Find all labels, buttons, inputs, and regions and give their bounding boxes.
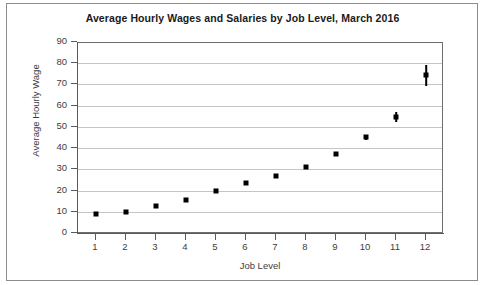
x-axis-title: Job Level	[77, 260, 443, 271]
y-axis-tick	[71, 41, 77, 42]
gridline	[78, 169, 442, 170]
gridline	[78, 106, 442, 107]
x-axis-label: 11	[383, 242, 407, 252]
data-point-marker	[334, 152, 339, 157]
y-axis-tick	[71, 147, 77, 148]
x-axis-tick	[245, 234, 246, 240]
chart-title: Average Hourly Wages and Salaries by Job…	[0, 12, 485, 24]
x-axis-label: 4	[173, 242, 197, 252]
gridline	[78, 63, 442, 64]
y-axis-label: 70	[45, 78, 67, 88]
y-axis-label: 50	[45, 121, 67, 131]
y-axis-tick	[71, 105, 77, 106]
x-axis-label: 10	[353, 242, 377, 252]
y-axis-label: 80	[45, 57, 67, 67]
x-axis-tick	[275, 234, 276, 240]
x-axis-tick	[155, 234, 156, 240]
gridline	[78, 148, 442, 149]
data-point-marker	[274, 173, 279, 178]
gridline	[78, 127, 442, 128]
x-axis-tick	[215, 234, 216, 240]
x-axis-tick	[395, 234, 396, 240]
x-axis-tick	[125, 234, 126, 240]
x-axis-label: 3	[143, 242, 167, 252]
x-axis-tick	[185, 234, 186, 240]
data-point-marker	[214, 189, 219, 194]
x-axis-label: 6	[233, 242, 257, 252]
x-axis-label: 7	[263, 242, 287, 252]
x-axis-label: 5	[203, 242, 227, 252]
x-axis-tick	[335, 234, 336, 240]
y-axis-label: 60	[45, 100, 67, 110]
gridline	[78, 191, 442, 192]
y-axis-label: 30	[45, 163, 67, 173]
y-axis-label: 10	[45, 206, 67, 216]
y-axis-tick	[71, 211, 77, 212]
plot-area	[77, 42, 443, 233]
y-axis-tick	[71, 83, 77, 84]
x-axis-tick	[365, 234, 366, 240]
data-point-marker	[394, 115, 399, 120]
x-axis-tick	[95, 234, 96, 240]
y-axis-title: Average Hourly Wage	[30, 51, 41, 171]
x-axis-label: 12	[413, 242, 437, 252]
data-point-marker	[124, 210, 129, 215]
x-axis-line	[77, 233, 444, 234]
y-axis-label: 40	[45, 142, 67, 152]
y-axis-tick	[71, 62, 77, 63]
x-axis-label: 1	[83, 242, 107, 252]
y-axis-label: 90	[45, 36, 67, 46]
chart-page: Average Hourly Wages and Salaries by Job…	[0, 0, 485, 285]
y-axis-label: 0	[45, 227, 67, 237]
x-axis-label: 2	[113, 242, 137, 252]
data-point-marker	[364, 135, 369, 140]
data-point-marker	[244, 180, 249, 185]
y-axis-label: 20	[45, 185, 67, 195]
x-axis-label: 8	[293, 242, 317, 252]
y-axis-tick	[71, 232, 77, 233]
gridline	[78, 84, 442, 85]
y-axis-tick	[71, 190, 77, 191]
x-axis-tick	[425, 234, 426, 240]
y-axis-tick	[71, 126, 77, 127]
y-axis-tick	[71, 168, 77, 169]
data-point-marker	[424, 73, 429, 78]
x-axis-label: 9	[323, 242, 347, 252]
data-point-marker	[184, 197, 189, 202]
y-axis-line	[77, 42, 78, 234]
x-axis-tick	[305, 234, 306, 240]
data-point-marker	[304, 165, 309, 170]
gridline	[78, 212, 442, 213]
data-point-marker	[154, 204, 159, 209]
data-point-marker	[94, 212, 99, 217]
